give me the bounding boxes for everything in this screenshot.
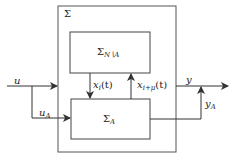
upper-block-label: ΣN∖A xyxy=(97,47,119,59)
u-text: u xyxy=(14,75,20,86)
output-y-label: y xyxy=(186,75,192,85)
ua-subscript: A xyxy=(45,112,50,120)
output-ya-label: yA xyxy=(205,99,216,111)
lower-sigma-subscript: A xyxy=(110,118,115,126)
y-text: y xyxy=(186,74,192,85)
input-ua-label: uA xyxy=(39,108,51,120)
state-xi-mu-label: xi+μ(t) xyxy=(137,80,167,92)
outer-block-label: Σ xyxy=(64,9,71,19)
input-u-label: u xyxy=(14,76,20,86)
state-xi-label: xi(t) xyxy=(93,80,113,92)
xi-arg: (t) xyxy=(101,79,113,90)
lower-block-label: ΣA xyxy=(103,114,115,126)
upper-sigma-subscript: N∖A xyxy=(104,51,119,59)
ya-subscript: A xyxy=(211,103,216,111)
block-diagram xyxy=(0,0,235,159)
xi-mu-subscript: i+μ xyxy=(143,84,156,92)
xi-mu-arg: (t) xyxy=(155,79,167,90)
input-ua-line xyxy=(32,86,70,118)
outer-sigma-text: Σ xyxy=(64,8,71,19)
